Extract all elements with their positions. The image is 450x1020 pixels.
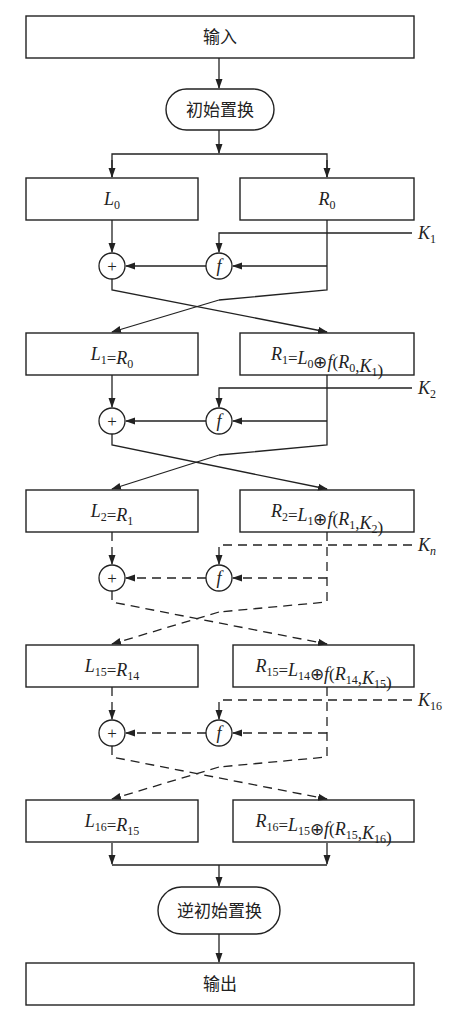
math-symbol: =	[107, 661, 117, 680]
key-line	[219, 700, 412, 719]
math-subscript: 16	[374, 832, 386, 846]
key-label: K16	[417, 690, 442, 713]
math-subscript: 16	[95, 820, 107, 834]
right-path	[219, 532, 327, 612]
math-subscript: 14	[127, 669, 139, 683]
math-subscript: 14	[298, 669, 310, 683]
right-path	[219, 220, 327, 300]
key-label: K2	[417, 378, 436, 401]
xor-symbol: +	[107, 257, 117, 276]
math-subscript: 15	[298, 824, 310, 838]
math-subscript: 14	[346, 673, 358, 687]
round-4: K16f+	[99, 687, 442, 799]
round-row-3: L15=R14R15=L14⊕f(R14,K15)	[26, 645, 414, 692]
math-symbol: R	[318, 189, 330, 209]
math-subscript: 15	[346, 828, 358, 842]
round-3: Knf+	[99, 532, 436, 644]
math-symbol: R	[270, 501, 282, 521]
math-symbol: K	[361, 668, 375, 688]
right-to-next-left	[112, 767, 219, 799]
xor-symbol: +	[107, 412, 117, 431]
math-symbol: R	[254, 811, 266, 831]
output-box: 输出	[26, 963, 414, 1005]
math-symbol: K	[358, 513, 372, 533]
math-symbol: R	[334, 819, 346, 839]
xor-to-next-right	[112, 434, 327, 489]
output-label: 输出	[203, 974, 237, 994]
key-line	[219, 388, 412, 407]
math-symbol: )	[377, 361, 383, 380]
math-symbol: )	[386, 828, 392, 847]
des-feistel-diagram: 输入 初始置换 L0R0L1=R0R1=L0⊕f(R0,K1)L2=R1R2=L…	[0, 0, 450, 1020]
math-symbol: R	[337, 509, 349, 529]
xor-to-next-right	[112, 279, 327, 332]
round-row-2: L2=R1R2=L1⊕f(R1,K2)	[26, 490, 414, 537]
math-symbol: ⊕	[313, 510, 327, 529]
math-symbol: L	[296, 348, 307, 368]
math-symbol: ⊕	[310, 820, 324, 839]
math-symbol: L	[287, 660, 298, 680]
math-symbol: R	[254, 656, 266, 676]
right-to-next-left	[112, 455, 219, 489]
math-symbol: =	[288, 506, 298, 525]
math-symbol: =	[278, 661, 288, 680]
math-symbol: L	[287, 815, 298, 835]
inverse-permutation-node: 逆初始置换	[158, 887, 280, 934]
math-symbol: R	[115, 348, 127, 368]
math-symbol: L	[90, 344, 101, 364]
right-path	[219, 375, 327, 455]
right-to-next-left	[112, 300, 219, 332]
math-symbol: =	[288, 349, 298, 368]
math-symbol: =	[107, 506, 117, 525]
math-subscript: 15	[374, 677, 386, 691]
initial-permutation-label: 初始置换	[186, 100, 254, 120]
math-symbol: =	[278, 816, 288, 835]
math-symbol: R	[115, 505, 127, 525]
xor-to-next-right	[112, 746, 327, 799]
math-symbol: K	[361, 823, 375, 843]
input-box: 输入	[26, 16, 414, 58]
math-subscript: 15	[95, 665, 107, 679]
math-symbol: )	[377, 518, 383, 537]
math-symbol: L	[90, 501, 101, 521]
math-symbol: L	[103, 189, 114, 209]
math-symbol: R	[337, 352, 349, 372]
math-symbol: R	[334, 664, 346, 684]
math-symbol: =	[107, 349, 117, 368]
math-subscript: 15	[266, 665, 278, 679]
math-subscript: 16	[266, 820, 278, 834]
math-subscript: 15	[127, 824, 139, 838]
math-subscript: 0	[114, 198, 120, 212]
initial-permutation-node: 初始置换	[166, 89, 274, 130]
round-row-1: L1=R0R1=L0⊕f(R0,K1)	[26, 333, 414, 380]
right-path	[219, 687, 327, 767]
round-1: K1f+	[99, 220, 436, 332]
math-symbol: L	[84, 656, 95, 676]
key-label: Kn	[417, 535, 436, 558]
key-line	[219, 233, 412, 252]
math-symbol: L	[296, 505, 307, 525]
xor-symbol: +	[107, 569, 117, 588]
xor-to-next-right	[112, 591, 327, 644]
math-symbol: K	[358, 356, 372, 376]
round-row-0: L0R0	[26, 178, 414, 220]
math-symbol: ⊕	[313, 353, 327, 372]
inverse-permutation-label: 逆初始置换	[177, 901, 262, 921]
math-symbol: ⊕	[310, 665, 324, 684]
input-label: 输入	[203, 27, 237, 47]
math-subscript: 0	[127, 357, 133, 371]
math-subscript: 0	[330, 198, 336, 212]
split-line	[112, 154, 327, 177]
xor-symbol: +	[107, 724, 117, 743]
math-symbol: R	[115, 660, 127, 680]
key-line	[219, 545, 412, 564]
round-2: K2f+	[99, 375, 436, 489]
round-row-4: L16=R15R16=L15⊕f(R15,K16)	[26, 800, 414, 847]
right-to-next-left	[112, 612, 219, 644]
math-symbol: R	[270, 344, 282, 364]
math-subscript: 1	[127, 514, 133, 528]
math-symbol: =	[107, 816, 117, 835]
key-label: K1	[417, 223, 436, 246]
math-symbol: R	[115, 815, 127, 835]
math-symbol: )	[386, 673, 392, 692]
